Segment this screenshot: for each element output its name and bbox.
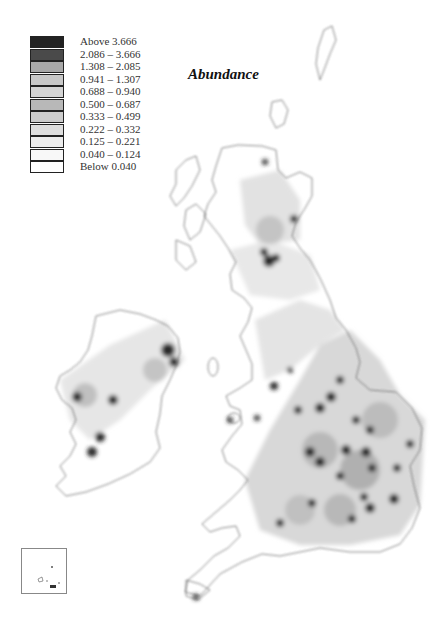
- legend-label: 0.500 – 0.687: [80, 98, 141, 111]
- inset-map: [22, 549, 66, 593]
- legend-swatch: [30, 61, 64, 73]
- legend-label: 0.688 – 0.940: [80, 85, 141, 98]
- legend-label: 0.941 – 1.307: [80, 73, 141, 86]
- legend-label: 0.222 – 0.332: [80, 123, 141, 136]
- map-title: Abundance: [188, 66, 259, 83]
- legend-swatch: [30, 36, 64, 48]
- legend-label: 0.040 – 0.124: [80, 148, 141, 161]
- legend-swatch: [30, 99, 64, 111]
- legend-swatch: [30, 49, 64, 61]
- channel-islands-inset: [21, 548, 67, 594]
- legend-swatch: [30, 136, 64, 148]
- legend-label: 0.333 – 0.499: [80, 110, 141, 123]
- legend-swatch: [30, 111, 64, 123]
- legend-swatch: [30, 74, 64, 86]
- legend-label: Below 0.040: [80, 160, 136, 173]
- abundance-shading: [60, 159, 425, 600]
- legend-swatch: [30, 161, 64, 173]
- legend-label: Above 3.666: [80, 35, 137, 48]
- legend-item: Below 0.040: [30, 161, 170, 174]
- legend-swatch: [30, 149, 64, 161]
- legend-label: 0.125 – 0.221: [80, 135, 141, 148]
- legend-label: 2.086 – 3.666: [80, 48, 141, 61]
- legend-label: 1.308 – 2.085: [80, 60, 141, 73]
- legend-swatch: [30, 124, 64, 136]
- legend-swatch: [30, 86, 64, 98]
